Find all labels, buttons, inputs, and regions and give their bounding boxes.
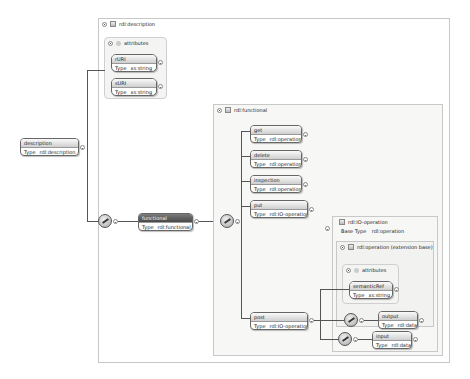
type-label: Type xyxy=(254,186,265,192)
element-name: delete xyxy=(251,151,301,160)
sequence-icon[interactable] xyxy=(344,313,358,327)
element-name: output xyxy=(379,312,417,321)
attributes-icon xyxy=(354,268,359,273)
element-name: functional xyxy=(139,214,192,223)
element-name: semanticRef xyxy=(350,282,392,291)
sequence-icon[interactable] xyxy=(220,214,234,228)
collapse-icon[interactable] xyxy=(325,226,330,231)
element-input[interactable]: input Typerdl:data xyxy=(372,331,412,349)
element-name: inspection xyxy=(251,176,301,185)
collapse-icon[interactable] xyxy=(217,108,222,113)
type-value: rdl:functional xyxy=(157,224,190,230)
type-value: rdl:description xyxy=(39,149,75,155)
sequence-icon[interactable] xyxy=(98,214,112,228)
element-inspection[interactable]: inspection Typerdl:operation xyxy=(250,175,302,193)
expand-connector[interactable] xyxy=(158,84,163,89)
connector-line xyxy=(364,320,378,321)
complex-type-icon xyxy=(110,21,116,27)
connector-line xyxy=(241,206,250,207)
expand-connector[interactable] xyxy=(158,60,163,65)
collapse-icon[interactable] xyxy=(346,268,351,273)
complex-type-icon xyxy=(339,219,345,225)
attributes-icon xyxy=(116,41,121,46)
sequence-icon[interactable] xyxy=(338,332,352,346)
complex-type-icon xyxy=(348,244,354,250)
type-value: rdl:operation xyxy=(269,186,301,192)
element-post[interactable]: post Typerdl:IO-operation xyxy=(250,312,308,330)
element-name: rURI xyxy=(112,55,156,64)
connector-line xyxy=(320,320,344,321)
connector-line xyxy=(241,131,250,132)
connector-line xyxy=(241,131,242,319)
complex-type-icon xyxy=(225,107,231,113)
type-label: Type xyxy=(254,161,265,167)
element-delete[interactable]: delete Typerdl:operation xyxy=(250,150,302,168)
expand-connector[interactable] xyxy=(303,157,308,162)
type-label: Type xyxy=(376,342,387,348)
base-type-value: rdl:operation xyxy=(372,228,404,234)
expand-connector[interactable] xyxy=(303,182,308,187)
type-label: Type xyxy=(142,224,153,230)
element-output[interactable]: output Typerdl:data xyxy=(378,311,418,329)
connector-line xyxy=(358,339,372,340)
type-label: Type xyxy=(24,149,35,155)
element-name: input xyxy=(373,332,411,341)
attribute-rURI[interactable]: rURI Typexs:string xyxy=(111,54,157,72)
frame-title: attributes xyxy=(124,40,148,46)
frame-title: rdl:IO-operation xyxy=(348,219,388,225)
type-value: rdl:data xyxy=(397,322,416,328)
element-name: get xyxy=(251,126,301,135)
type-value: rdl:IO-operation xyxy=(269,211,308,217)
type-label: Type xyxy=(382,322,393,328)
attribute-sURI[interactable]: sURI Typexs:string xyxy=(111,78,157,96)
connector-line xyxy=(241,181,250,182)
frame-title: rdl:functional xyxy=(234,107,267,113)
base-type-label: Base Type xyxy=(341,228,366,234)
element-put[interactable]: put Typerdl:IO-operation xyxy=(250,200,308,218)
type-value: rdl:operation xyxy=(269,161,301,167)
connector-line xyxy=(241,156,250,157)
collapse-icon[interactable] xyxy=(340,245,345,250)
connector-line xyxy=(320,289,321,339)
element-get[interactable]: get Typerdl:operation xyxy=(250,125,302,143)
type-value: xs:string xyxy=(130,65,152,71)
type-label: Type xyxy=(115,65,126,71)
connector-line xyxy=(118,221,138,222)
type-value: xs:string xyxy=(130,89,152,95)
type-label: Type xyxy=(254,323,265,329)
connector-line xyxy=(320,289,349,290)
connector-line xyxy=(87,70,105,71)
type-label: Type xyxy=(353,292,364,298)
connector-line xyxy=(241,318,250,319)
type-label: Type xyxy=(115,89,126,95)
expand-connector[interactable] xyxy=(394,287,399,292)
element-functional[interactable]: functional Typerdl:functional xyxy=(138,213,193,231)
root-element-description[interactable]: description Typerdl:description xyxy=(20,138,79,156)
type-value: xs:string xyxy=(368,292,390,298)
collapse-icon[interactable] xyxy=(108,41,113,46)
collapse-icon[interactable] xyxy=(102,22,107,27)
type-value: rdl:operation xyxy=(269,136,301,142)
element-name: post xyxy=(251,313,307,322)
attribute-semanticRef[interactable]: semanticRef Typexs:string xyxy=(349,281,393,299)
type-value: rdl:IO-operation xyxy=(269,323,308,329)
expand-connector[interactable] xyxy=(413,337,418,342)
expand-connector[interactable] xyxy=(303,132,308,137)
element-name: sURI xyxy=(112,79,156,88)
element-name: put xyxy=(251,201,307,210)
expand-connector[interactable] xyxy=(235,219,240,224)
frame-title: rdl:description xyxy=(119,21,155,27)
frame-title: rdl:operation (extension base) xyxy=(357,244,433,250)
type-label: Type xyxy=(254,136,265,142)
element-name: description xyxy=(21,139,78,148)
type-value: rdl:data xyxy=(391,342,410,348)
connector-line xyxy=(320,339,338,340)
connector-line xyxy=(87,70,88,221)
type-label: Type xyxy=(254,211,265,217)
expand-connector[interactable] xyxy=(309,207,314,212)
expand-connector[interactable] xyxy=(80,145,85,150)
frame-title: attributes xyxy=(362,267,386,273)
expand-connector[interactable] xyxy=(419,318,424,323)
